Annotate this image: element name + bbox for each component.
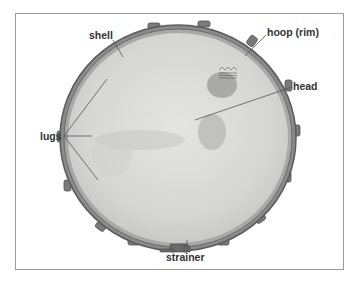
label-hoop: hoop (rim)	[267, 27, 319, 38]
label-strainer: strainer	[166, 252, 205, 263]
label-head: head	[293, 81, 318, 92]
label-shell: shell	[89, 30, 113, 41]
head-dot	[207, 72, 237, 98]
label-lugs: lugs	[40, 131, 62, 142]
